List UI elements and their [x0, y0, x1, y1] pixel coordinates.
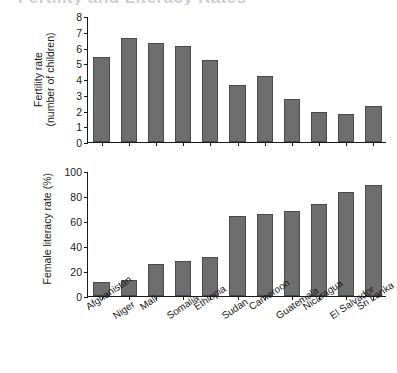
- y-axis-tick: [84, 222, 88, 223]
- y-axis-tick-label: 60: [70, 217, 82, 228]
- bar: [148, 264, 164, 297]
- y-axis-tick-label: 20: [70, 267, 82, 278]
- y-axis-tick-label: 0: [76, 292, 82, 303]
- y-axis-tick: [84, 197, 88, 198]
- bar: [257, 214, 273, 297]
- chart-panel-literacy: Female literacy rate (%) 020406080100 Af…: [0, 0, 397, 373]
- bar: [229, 216, 245, 296]
- y-axis-tick-label: 100: [64, 167, 82, 178]
- y-axis-tick-label: 80: [70, 192, 82, 203]
- y-axis-tick: [84, 247, 88, 248]
- x-axis-category-label: Niger: [111, 299, 136, 321]
- y-axis-tick: [84, 172, 88, 173]
- x-axis-category-label: Sudan: [220, 297, 250, 321]
- y-axis-label-literacy: Female literacy rate (%): [41, 166, 53, 291]
- y-axis-tick-label: 40: [70, 242, 82, 253]
- bar: [365, 185, 381, 296]
- y-axis-tick: [84, 297, 88, 298]
- figure-canvas: Fertility and Literacy Rates Fertility r…: [0, 0, 397, 373]
- y-axis-tick: [84, 272, 88, 273]
- bar: [175, 261, 191, 296]
- plot-area-literacy: 020406080100: [87, 172, 386, 297]
- bar: [311, 204, 327, 297]
